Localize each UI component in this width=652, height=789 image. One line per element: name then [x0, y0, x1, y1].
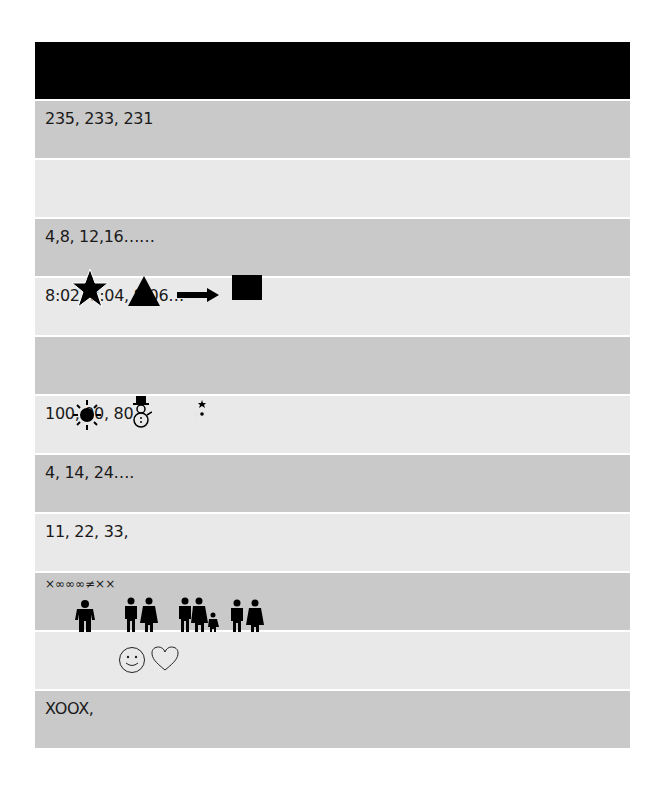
cell-text: XOOX,: [45, 699, 94, 718]
couple-icon: [229, 599, 265, 635]
cell-text: 11, 22, 33,: [45, 522, 128, 541]
moon-stars-icon: [177, 400, 207, 428]
sun-icon: [73, 400, 101, 430]
star-icon: [71, 268, 109, 308]
heart-icon: [151, 646, 179, 672]
cell-text: 4, 14, 24….: [45, 463, 134, 482]
smiley-icon: [118, 646, 146, 674]
family-icon: [178, 597, 220, 633]
table-row: [35, 337, 630, 394]
triangle-icon: [127, 276, 161, 306]
snowman-icon: [130, 396, 152, 428]
table-row: [35, 632, 630, 689]
table-row: XOOX,: [35, 691, 630, 748]
table-row: 11, 22, 33,: [35, 514, 630, 571]
man-icon: [73, 600, 97, 632]
cell-text: 4,8, 12,16……: [45, 227, 155, 246]
sequence-table: 235, 233, 231 4,8, 12,16…… 8:02, 8:04, 8…: [35, 42, 630, 750]
table-row: [35, 160, 630, 217]
table-row: 4, 14, 24….: [35, 455, 630, 512]
cell-text: 235, 233, 231: [45, 109, 153, 128]
square-icon: [232, 275, 262, 300]
arrow-right-icon: [177, 288, 219, 302]
cell-text: 8:02, 8:04, 8:06…: [45, 286, 184, 305]
cell-text: ×∞∞∞≠××: [45, 577, 115, 591]
couple-icon: [123, 597, 159, 633]
table-row: ×∞∞∞≠××: [35, 573, 630, 630]
table-row: 235, 233, 231: [35, 101, 630, 158]
table-row: 8:02, 8:04, 8:06…: [35, 278, 630, 335]
table-row: 4,8, 12,16……: [35, 219, 630, 276]
table-row: 100, 90, 80: [35, 396, 630, 453]
table-header: [35, 42, 630, 99]
